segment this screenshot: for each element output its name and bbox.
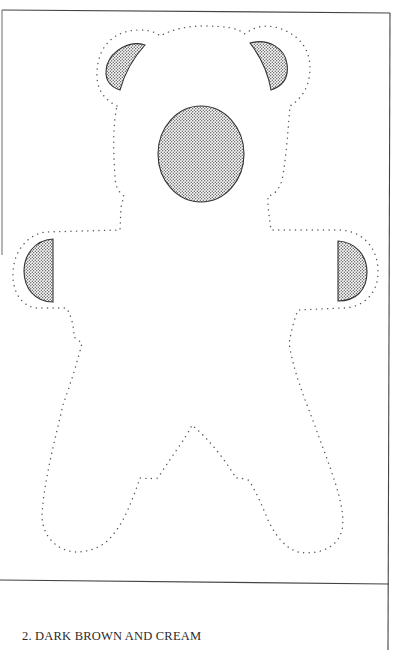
bear-body-outline: [13, 26, 378, 553]
frame-right-line: [388, 13, 390, 650]
right-paw-patch: [338, 241, 367, 301]
pattern-caption: 2. DARK BROWN AND CREAM: [22, 630, 201, 643]
face-oval-patch: [158, 106, 244, 202]
teddy-bear-pattern-figure: [0, 0, 397, 650]
right-ear-patch: [250, 42, 287, 90]
left-paw-patch: [24, 239, 53, 302]
pattern-page: 2. DARK BROWN AND CREAM: [0, 0, 397, 650]
frame-divider-line: [0, 580, 389, 584]
left-ear-patch: [106, 44, 145, 90]
frame-top-line: [2, 10, 390, 13]
